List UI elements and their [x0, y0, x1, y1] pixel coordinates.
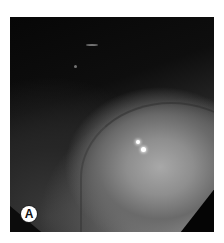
faint-reflection [86, 44, 98, 46]
specular-highlight [136, 140, 140, 144]
endoscopic-image [10, 17, 214, 232]
panel-label-badge: A [21, 206, 37, 222]
specular-highlight [141, 147, 146, 152]
faint-reflection [74, 65, 77, 68]
